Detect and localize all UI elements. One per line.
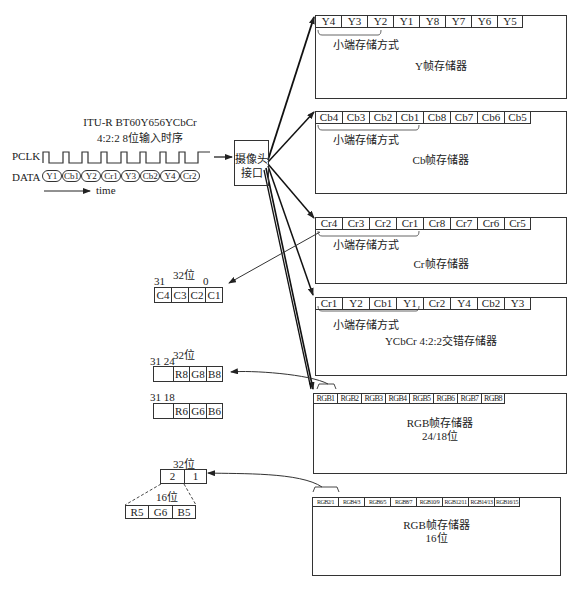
memory-cell: Cr1 xyxy=(315,297,342,310)
memory-cell: Cr2 xyxy=(423,297,450,310)
memory-cell: Cb5 xyxy=(504,111,531,124)
memory-cell: RGB12/11 xyxy=(442,497,468,507)
register-cell: 2 xyxy=(160,469,184,484)
cb-memory-title: Cb帧存储器 xyxy=(315,151,567,167)
data-sample: Cr2 xyxy=(180,170,200,182)
y-memory-cells: Y4 Y3 Y2 Y1 Y8 Y7 Y6 Y5 xyxy=(315,15,523,28)
memory-cell: RGB2/1 xyxy=(312,497,338,507)
memory-cell: Cb1 xyxy=(369,297,396,310)
memory-cell: RGB6/5 xyxy=(364,497,390,507)
memory-cell: RGB3 xyxy=(361,393,385,404)
register-cell xyxy=(153,366,173,382)
register-cell: B5 xyxy=(172,505,196,519)
memory-cell: Y4 xyxy=(315,15,341,28)
cr-endian-label: 小端存储方式 xyxy=(333,236,399,252)
register-cell: B8 xyxy=(206,366,223,382)
data-samples: Y1 Cb1 Y2 Cr1 Y3 Cb2 Y4 Cr2 xyxy=(42,170,200,182)
time-label: time xyxy=(96,184,116,196)
register-cell: R5 xyxy=(125,505,148,519)
rgb24-register-width-label: 32位 xyxy=(173,346,195,362)
register-cell xyxy=(153,403,173,419)
rgb16-memory-cells: RGB2/1 RGB4/3 RGB6/5 RGB8/7 RGB10/9 RGB1… xyxy=(312,497,520,507)
timing-title-line2: 4:2:2 8位输入时序 xyxy=(60,129,220,145)
memory-cell: Cr2 xyxy=(369,217,396,230)
c-register-width-label: 32位 xyxy=(173,266,195,282)
ycbcr-endian-label: 小端存储方式 xyxy=(333,316,399,332)
data-sample: Y2 xyxy=(81,170,101,182)
memory-cell: Y1 xyxy=(393,15,419,28)
memory-cell: Y2 xyxy=(367,15,393,28)
memory-cell: RGB2 xyxy=(337,393,361,404)
camera-interface-diagram: ITU-R BT60Y656YCbCr 4:2:2 8位输入时序 PCLK DA… xyxy=(0,0,577,593)
memory-cell: Cb3 xyxy=(342,111,369,124)
register-cell: G6 xyxy=(148,505,172,519)
memory-cell: Cr1 xyxy=(396,217,423,230)
y-endian-label: 小端存储方式 xyxy=(333,36,399,52)
register-cell: G6 xyxy=(189,403,206,419)
rgb24-register: R8 G8 B8 xyxy=(153,366,223,382)
memory-cell: RGB10/9 xyxy=(416,497,442,507)
register-cell: C1 xyxy=(205,287,223,303)
data-sample: Cr1 xyxy=(101,170,121,182)
memory-cell: RGB8/7 xyxy=(390,497,416,507)
data-sample: Y1 xyxy=(42,170,62,182)
memory-cell: Cr4 xyxy=(315,217,342,230)
memory-cell: Y1 xyxy=(396,297,423,310)
pclk-label: PCLK xyxy=(12,150,40,162)
memory-cell: RGB14/13 xyxy=(468,497,494,507)
memory-cell: Cr3 xyxy=(342,217,369,230)
memory-cell: RGB1 xyxy=(313,393,337,404)
memory-cell: Cb1 xyxy=(396,111,423,124)
y-memory-title: Y帧存储器 xyxy=(315,57,567,73)
rgb18-register-bit-labels: 31 18 xyxy=(150,391,175,403)
memory-cell: Y4 xyxy=(450,297,477,310)
memory-cell: RGB4 xyxy=(385,393,409,404)
c-register: C4 C3 C2 C1 xyxy=(154,287,223,303)
cb-endian-label: 小端存储方式 xyxy=(333,131,399,147)
data-sample: Y4 xyxy=(160,170,180,182)
memory-cell: RGB4/3 xyxy=(338,497,364,507)
register-cell: B6 xyxy=(206,403,223,419)
memory-cell: Y8 xyxy=(419,15,445,28)
memory-cell: Y2 xyxy=(342,297,369,310)
memory-cell: RGB6 xyxy=(433,393,457,404)
register-cell: 1 xyxy=(184,469,207,484)
data-sample: Cb2 xyxy=(140,170,160,182)
memory-cell: Cb6 xyxy=(477,111,504,124)
ycbcr-memory-cells: Cr1 Y2 Cb1 Y1 Cr2 Y4 Cb2 Y3 xyxy=(315,297,531,310)
memory-cell: Y7 xyxy=(445,15,471,28)
camera-interface-line2: 接口 xyxy=(235,164,268,180)
rgb16-register-sub-width-label: 16位 xyxy=(156,488,178,504)
register-cell: C4 xyxy=(154,287,171,303)
rgb16-memory-subtitle: 16位 xyxy=(312,529,561,545)
cr-memory-cells: Cr4 Cr3 Cr2 Cr1 Cr8 Cr7 Cr6 Cr5 xyxy=(315,217,531,230)
memory-cell: Cb7 xyxy=(450,111,477,124)
memory-cell: Y3 xyxy=(504,297,531,310)
memory-cell: Cr5 xyxy=(504,217,531,230)
cr-memory-title: Cr帧存储器 xyxy=(315,255,567,271)
register-cell: C3 xyxy=(171,287,188,303)
ycbcr-memory-title: YCbCr 4:2:2交错存储器 xyxy=(315,332,567,348)
cb-memory-cells: Cb4 Cb3 Cb2 Cb1 Cb8 Cb7 Cb6 Cb5 xyxy=(315,111,531,124)
memory-cell: Cr8 xyxy=(423,217,450,230)
rgb16-sub-register: R5 G6 B5 xyxy=(125,505,196,519)
memory-cell: Cb2 xyxy=(369,111,396,124)
memory-cell: Y5 xyxy=(497,15,523,28)
rgb24-memory-cells: RGB1 RGB2 RGB3 RGB4 RGB5 RGB6 RGB7 RGB8 xyxy=(313,393,505,404)
data-label: DATA xyxy=(12,171,40,183)
c-register-lsb: 0 xyxy=(203,275,209,287)
memory-cell: Cb8 xyxy=(423,111,450,124)
register-cell: R6 xyxy=(173,403,189,419)
memory-cell: RGB7 xyxy=(457,393,481,404)
rgb16-register: 2 1 xyxy=(160,469,207,484)
c-register-msb: 31 xyxy=(154,275,165,287)
register-cell: G8 xyxy=(189,366,206,382)
memory-cell: Cr6 xyxy=(477,217,504,230)
camera-interface-box: 摄像头 接口 xyxy=(234,140,269,186)
memory-cell: Y3 xyxy=(341,15,367,28)
data-sample: Cb1 xyxy=(62,170,82,182)
register-cell: R8 xyxy=(173,366,189,382)
memory-cell: RGB8 xyxy=(481,393,505,404)
memory-cell: Cr7 xyxy=(450,217,477,230)
register-cell: C2 xyxy=(188,287,205,303)
